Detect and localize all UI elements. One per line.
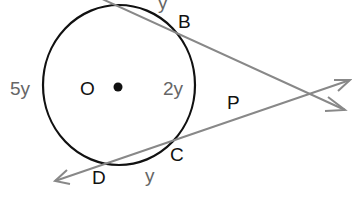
arc-label-right: 2y (163, 78, 184, 99)
diagram-svg: O B C D P y 5y 2y y (0, 0, 352, 198)
point-label-c: C (170, 144, 184, 165)
arc-label-top: y (158, 0, 168, 13)
point-label-p: P (227, 92, 240, 113)
point-label-b: B (178, 11, 191, 32)
arc-label-bottom: y (145, 165, 155, 186)
point-label-d: D (92, 167, 106, 188)
center-label: O (80, 78, 95, 99)
geometry-diagram: O B C D P y 5y 2y y (0, 0, 352, 198)
center-point (114, 83, 123, 92)
arc-label-left: 5y (10, 78, 31, 99)
